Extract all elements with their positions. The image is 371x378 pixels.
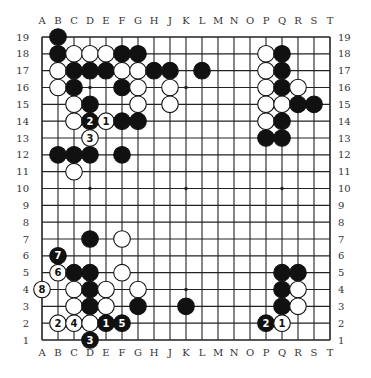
black-stone: [82, 96, 99, 113]
black-stone: [114, 113, 131, 130]
column-label: E: [102, 15, 109, 26]
move-number: 2: [87, 116, 94, 127]
row-label: 5: [338, 267, 344, 278]
row-label: 19: [338, 32, 351, 43]
white-stone-move-1: 1: [98, 113, 115, 130]
white-stone: [290, 281, 307, 298]
star-point: [184, 86, 188, 90]
column-label: A: [37, 15, 46, 26]
column-label: N: [230, 347, 239, 358]
white-stone: [258, 46, 275, 63]
row-label: 4: [338, 284, 344, 295]
column-label: F: [119, 347, 126, 358]
column-label: A: [37, 347, 46, 358]
move-number: 7: [55, 250, 62, 261]
column-label: K: [182, 347, 190, 358]
black-stone: [66, 147, 83, 164]
row-labels-left: 19181716151413121110987654321: [16, 32, 29, 346]
column-label: N: [230, 15, 239, 26]
row-label: 18: [338, 48, 351, 59]
move-number: 5: [119, 318, 126, 329]
row-label: 2: [23, 318, 29, 329]
black-stone: [98, 62, 115, 79]
row-label: 14: [16, 116, 29, 127]
white-stone: [66, 96, 83, 113]
row-label: 16: [338, 82, 351, 93]
black-stone: [82, 281, 99, 298]
column-label: J: [167, 347, 172, 358]
black-stone: [114, 147, 131, 164]
column-label: P: [263, 347, 270, 358]
move-number: 2: [263, 318, 270, 329]
black-stone: [82, 62, 99, 79]
row-label: 15: [338, 99, 351, 110]
row-label: 12: [16, 149, 29, 160]
row-label: 14: [338, 116, 351, 127]
white-stone: [258, 113, 275, 130]
row-label: 7: [23, 234, 29, 245]
white-stone: [66, 163, 83, 180]
black-stone-move-7: 7: [50, 248, 67, 265]
white-stone: [162, 79, 179, 96]
star-point: [184, 288, 188, 292]
column-label: G: [134, 347, 142, 358]
black-stone: [130, 113, 147, 130]
row-label: 11: [338, 166, 351, 177]
row-label: 13: [338, 133, 351, 144]
row-label: 17: [16, 65, 29, 76]
white-stone-move-2: 2: [50, 315, 67, 332]
row-label: 5: [23, 267, 29, 278]
white-stone: [290, 79, 307, 96]
move-number: 4: [71, 318, 78, 329]
row-label: 11: [16, 166, 29, 177]
black-stone: [146, 62, 163, 79]
black-stone: [274, 113, 291, 130]
white-stone: [50, 79, 67, 96]
row-label: 10: [16, 183, 29, 194]
row-label: 17: [338, 65, 351, 76]
row-labels-right: 19181716151413121110987654321: [338, 32, 351, 346]
column-label: Q: [278, 15, 286, 26]
column-label: C: [70, 347, 78, 358]
black-stone: [114, 79, 131, 96]
row-label: 1: [23, 335, 29, 346]
black-stone: [274, 264, 291, 281]
white-stone: [130, 62, 147, 79]
move-number: 6: [55, 267, 62, 278]
move-number: 1: [279, 318, 286, 329]
black-stone: [50, 46, 67, 63]
column-label: F: [119, 15, 126, 26]
column-label: H: [150, 347, 159, 358]
row-label: 12: [338, 149, 351, 160]
black-stone-move-3: 3: [82, 332, 99, 349]
row-label: 15: [16, 99, 29, 110]
white-stone: [82, 46, 99, 63]
white-stone-move-1: 1: [274, 315, 291, 332]
row-label: 4: [23, 284, 29, 295]
row-label: 2: [338, 318, 344, 329]
white-stone-move-4: 4: [66, 315, 83, 332]
black-stone-move-5: 5: [114, 315, 131, 332]
white-stone: [66, 113, 83, 130]
white-stone: [50, 62, 67, 79]
black-stone: [66, 264, 83, 281]
row-label: 9: [338, 200, 344, 211]
white-stone: [130, 281, 147, 298]
star-point: [184, 187, 188, 191]
move-number: 3: [87, 335, 94, 346]
go-board-diagram: ABCDEFGHJKLMNOPQRST ABCDEFGHJKLMNOPQRST …: [0, 0, 371, 378]
white-stone: [98, 46, 115, 63]
column-label: T: [327, 15, 334, 26]
black-stone: [82, 147, 99, 164]
star-point: [88, 187, 92, 191]
column-label: S: [311, 15, 318, 26]
white-stone: [258, 62, 275, 79]
move-number: 2: [55, 318, 62, 329]
column-label: R: [294, 15, 302, 26]
column-label: K: [182, 15, 190, 26]
column-label: O: [246, 15, 254, 26]
black-stone: [178, 298, 195, 315]
black-stone: [114, 46, 131, 63]
column-label: M: [213, 347, 223, 358]
star-point: [88, 86, 92, 90]
